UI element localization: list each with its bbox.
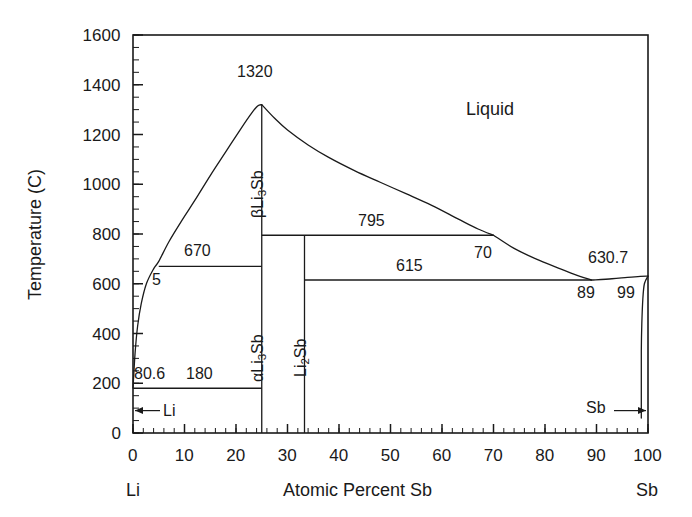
terminal-label-sb: Sb — [586, 400, 606, 416]
compound-vertical-lines — [262, 105, 305, 433]
alpha-li3sb-suffix: Sb — [249, 334, 266, 354]
left-endpoint-label: Li — [126, 481, 140, 499]
beta-li3sb-subscript: 3 — [256, 190, 268, 196]
phase-boundary-sb-rich-liquidus-to-sb-melting-point — [591, 276, 648, 280]
li2sb-subscript: 2 — [299, 358, 311, 364]
phase-region-liquid: Liquid — [466, 100, 514, 118]
x-tick-label: 90 — [587, 447, 606, 464]
beta-li3sb-suffix: Sb — [249, 170, 266, 190]
li2sb-prefix: Li — [292, 365, 309, 377]
x-tick-label: 70 — [484, 447, 503, 464]
alpha-li3sb-prefix: αLi — [249, 360, 266, 382]
y-tick-label: 800 — [92, 226, 120, 243]
right-endpoint-label: Sb — [636, 481, 658, 499]
terminal-phase-arrows — [135, 407, 646, 414]
annotation-630-7: 630.7 — [588, 250, 628, 266]
annotation-1320: 1320 — [237, 64, 273, 80]
terminal-label-li: Li — [163, 403, 175, 419]
y-tick-label: 600 — [92, 276, 120, 293]
x-tick-label: 40 — [329, 447, 348, 464]
annotation-89: 89 — [577, 285, 595, 301]
phase-diagram-figure: Temperature (C) Atomic Percent Sb Li Sb … — [0, 0, 692, 517]
x-tick-label: 80 — [535, 447, 554, 464]
x-axis-ticks — [133, 424, 648, 433]
li2sb-suffix: Sb — [292, 339, 309, 359]
phase-boundary-sb-rich-solidus — [641, 276, 648, 418]
x-tick-label: 50 — [381, 447, 400, 464]
y-axis-title: Temperature (C) — [26, 169, 44, 300]
x-tick-label: 20 — [226, 447, 245, 464]
x-tick-label: 10 — [175, 447, 194, 464]
alpha-li3sb-subscript: 3 — [256, 354, 268, 360]
phase-region-li2sb: Li2Sb — [293, 339, 311, 377]
annotation-70: 70 — [474, 245, 492, 261]
annotation-795: 795 — [358, 213, 385, 229]
x-tick-label: 0 — [128, 447, 137, 464]
annotation-80-6: 80.6 — [134, 366, 165, 382]
x-tick-label: 30 — [278, 447, 297, 464]
annotation-5: 5 — [152, 272, 161, 288]
phase-region-beta-li3sb: βLi3Sb — [250, 170, 268, 218]
x-tick-label: 100 — [633, 447, 661, 464]
x-axis-title: Atomic Percent Sb — [283, 481, 432, 499]
annotation-180: 180 — [186, 366, 213, 382]
annotation-615: 615 — [396, 258, 423, 274]
y-tick-label: 200 — [92, 375, 120, 392]
y-tick-label: 1200 — [83, 127, 121, 144]
y-tick-label: 1400 — [83, 77, 121, 94]
phase-region-alpha-li3sb: αLi3Sb — [250, 334, 268, 382]
y-tick-label: 1600 — [83, 27, 121, 44]
y-tick-label: 400 — [92, 326, 120, 343]
x-tick-label: 60 — [432, 447, 451, 464]
y-tick-label: 0 — [111, 425, 120, 442]
annotation-670: 670 — [184, 243, 211, 259]
sb-arrow-head — [638, 407, 646, 414]
annotation-99: 99 — [617, 285, 635, 301]
y-tick-label: 1000 — [83, 176, 121, 193]
phase-boundary-liquidus-70-to-eutectic-89 — [494, 235, 592, 280]
beta-li3sb-prefix: βLi — [249, 196, 266, 218]
